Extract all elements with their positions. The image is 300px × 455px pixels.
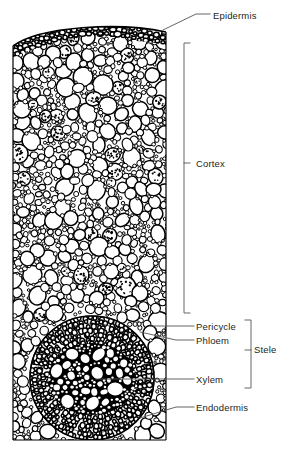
- label-phloem: Phloem: [196, 335, 229, 346]
- diagram-canvas: Epidermis Cortex Pericycle Phloem Xylem …: [0, 0, 300, 455]
- tissue-block: [4, 15, 178, 446]
- bracket-stele: [245, 320, 251, 388]
- label-stele: Stele: [254, 344, 276, 355]
- label-cortex: Cortex: [196, 158, 225, 169]
- label-endodermis: Endodermis: [196, 402, 248, 413]
- leader-line-epidermis: [163, 14, 210, 30]
- label-pericycle: Pericycle: [196, 321, 236, 332]
- root-cross-section-figure: [0, 0, 300, 455]
- bracket-cortex: [184, 43, 190, 313]
- label-xylem: Xylem: [196, 374, 223, 385]
- label-epidermis: Epidermis: [213, 10, 257, 21]
